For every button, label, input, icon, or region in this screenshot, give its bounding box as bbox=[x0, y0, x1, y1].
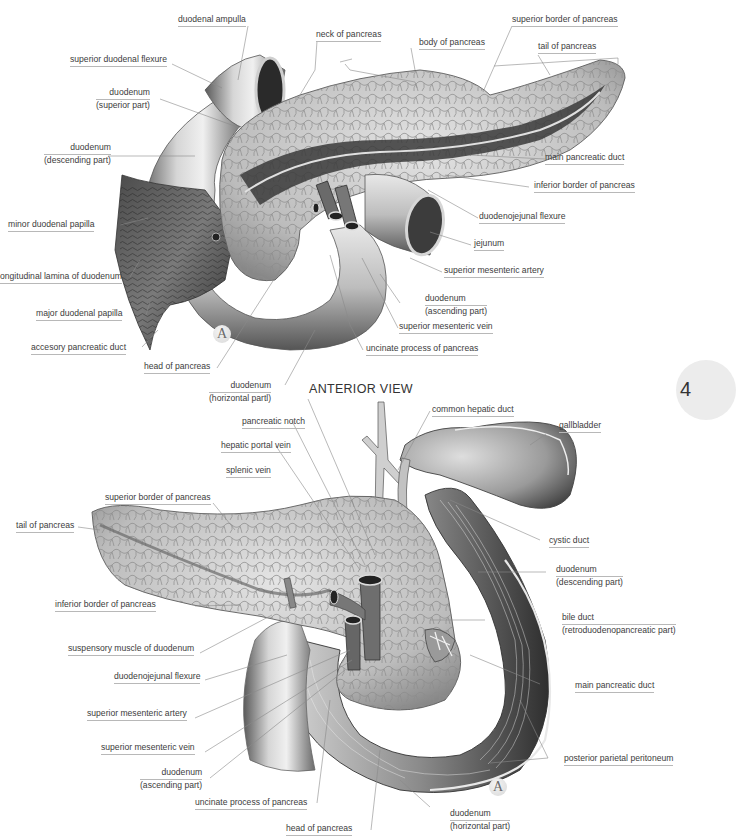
label-inferior-border-of-pancreas-top: inferior border of pancreas bbox=[534, 180, 635, 193]
label-common-hepatic-duct: common hepatic duct bbox=[432, 404, 514, 417]
label-duodenum-horizontal-part-top: duodenum(horizontal partl) bbox=[209, 380, 271, 405]
label-duodenal-ampulla: duodenal ampulla bbox=[178, 14, 246, 27]
label-splenic-vein: splenic vein bbox=[226, 465, 271, 478]
label-superior-duodenal-flexure: superior duodenal flexure bbox=[70, 54, 167, 67]
label-tail-of-pancreas-top: tail of pancreas bbox=[538, 41, 596, 54]
label-gallbladder: gallbladder bbox=[559, 420, 601, 433]
label-pancreatic-notch: pancreatic notch bbox=[242, 416, 305, 429]
label-duodenum-ascending-part-top: duodenum(ascending part) bbox=[425, 293, 487, 318]
label-head-of-pancreas-top: head of pancreas bbox=[144, 361, 210, 374]
chapter-number: 4 bbox=[680, 378, 691, 401]
label-main-pancreatic-duct-bottom: main pancreatic duct bbox=[575, 680, 654, 693]
view-badge-bottom: A bbox=[489, 778, 507, 796]
view-badge-top: A bbox=[213, 325, 231, 343]
label-accesory-pancreatic-duct: accesory pancreatic duct bbox=[31, 342, 126, 355]
label-body-of-pancreas: body of pancreas bbox=[419, 37, 485, 50]
label-longitudinal-lamina-of-duodenum: ongitudinal lamina of duodenum bbox=[0, 271, 122, 284]
label-suspensory-muscle-of-duodenum: suspensory muscle of duodenum bbox=[68, 643, 194, 656]
label-hepatic-portal-vein: hepatic portal vein bbox=[221, 440, 291, 453]
label-duodenum-superior-part: duodenum(superior part) bbox=[96, 87, 150, 112]
label-superior-mesenteric-vein-bottom: superior mesenteric vein bbox=[101, 742, 195, 755]
label-main-pancreatic-duct-top: main pancreatic duct bbox=[545, 152, 624, 165]
view-title: ANTERIOR VIEW bbox=[309, 382, 413, 396]
label-uncinate-process-of-pancreas-bottom: uncinate process of pancreas bbox=[195, 797, 307, 810]
label-duodenum-horizontal-part-bottom: duodenum(horizontal part) bbox=[450, 808, 510, 833]
label-minor-duodenal-papilla: minor duodenal papilla bbox=[8, 219, 94, 232]
top-panel-illustration bbox=[115, 55, 625, 350]
label-major-duodenal-papilla: major duodenal papilla bbox=[36, 308, 122, 321]
label-duodenojejunal-flexure-top: duodenojejunal flexure bbox=[479, 211, 565, 224]
label-tail-of-pancreas-bottom: tail of pancreas bbox=[16, 520, 74, 533]
label-duodenum-descending-part-top: duodenum(descending part) bbox=[44, 142, 111, 167]
label-superior-mesenteric-artery-bottom: superior mesenteric artery bbox=[87, 708, 187, 721]
label-posterior-parietal-peritoneum: posterior parietal peritoneum bbox=[564, 753, 673, 766]
label-duodenum-ascending-part-bottom: duodenum(ascending part) bbox=[140, 767, 202, 792]
label-superior-border-of-pancreas-top: superior border of pancreas bbox=[512, 14, 618, 27]
label-bile-duct: bile duct(retroduodenopancreatic part) bbox=[562, 612, 676, 637]
label-duodenojejunal-flexure-bottom: duodenojejunal flexure bbox=[114, 671, 200, 684]
chapter-tab: 4 bbox=[676, 360, 736, 420]
label-duodenum-descending-part-bottom: duodenum(descending part) bbox=[556, 564, 623, 589]
label-superior-border-of-pancreas-bottom: superior border of pancreas bbox=[105, 492, 211, 505]
label-superior-mesenteric-artery-top: superior mesenteric artery bbox=[444, 265, 544, 278]
label-jejunum: jejunum bbox=[474, 238, 504, 251]
label-uncinate-process-of-pancreas-top: uncinate process of pancreas bbox=[366, 343, 478, 356]
label-inferior-border-of-pancreas-bottom: inferior border of pancreas bbox=[55, 599, 156, 612]
label-neck-of-pancreas: neck of pancreas bbox=[316, 29, 381, 42]
label-cystic-duct: cystic duct bbox=[549, 535, 589, 548]
label-superior-mesenteric-vein-top: superior mesenteric vein bbox=[399, 321, 493, 334]
label-head-of-pancreas-bottom: head of pancreas bbox=[286, 823, 352, 836]
duodenojejunal-flexure-shape bbox=[244, 620, 315, 771]
